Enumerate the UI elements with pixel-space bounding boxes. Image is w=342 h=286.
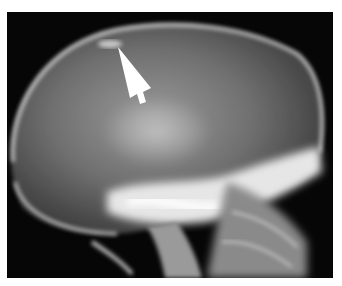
skull-radiograph — [7, 12, 333, 278]
figure — [0, 0, 342, 286]
xray-image — [7, 12, 333, 278]
calcification — [98, 40, 122, 48]
